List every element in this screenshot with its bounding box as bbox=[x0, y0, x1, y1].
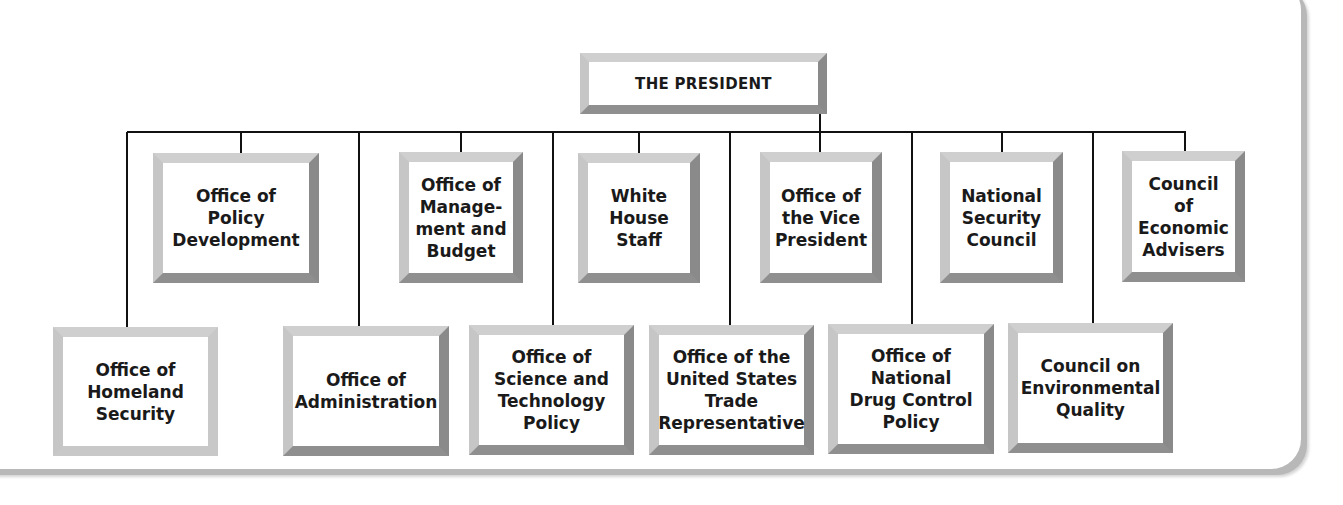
connector-ceq bbox=[1092, 132, 1094, 324]
connector-bus bbox=[127, 131, 1186, 133]
node-president: THE PRESIDENT bbox=[580, 53, 827, 114]
connector-nsc bbox=[1001, 132, 1003, 154]
node-label: Office of Administration bbox=[291, 369, 442, 413]
node-omb: Office of Manage- ment and Budget bbox=[399, 152, 523, 283]
node-administration: Office of Administration bbox=[283, 326, 449, 456]
node-nsc: National Security Council bbox=[940, 152, 1063, 283]
connector-ondcp bbox=[911, 132, 913, 325]
node-label: Office of National Drug Control Policy bbox=[846, 345, 977, 433]
connector-ustr bbox=[729, 132, 731, 325]
connector-vice-president bbox=[819, 132, 821, 154]
node-label: Office of Policy Development bbox=[168, 185, 303, 251]
node-ostp: Office of Science and Technology Policy bbox=[469, 325, 634, 455]
connector-ostp bbox=[552, 132, 554, 325]
node-label: Council of Economic Advisers bbox=[1132, 173, 1235, 261]
node-label: National Security Council bbox=[957, 185, 1046, 251]
node-label: Office of Science and Technology Policy bbox=[490, 346, 613, 434]
node-homeland-security: Office of Homeland Security bbox=[53, 327, 218, 456]
connector-homeland-security bbox=[126, 132, 128, 328]
node-white-house-staff: White House Staff bbox=[578, 153, 700, 283]
node-label: Council on Environmental Quality bbox=[1017, 355, 1165, 421]
connector-white-house-staff bbox=[638, 132, 640, 154]
node-cea: Council of Economic Advisers bbox=[1122, 151, 1245, 282]
node-vice-president: Office of the Vice President bbox=[760, 152, 882, 283]
node-label: Office of Manage- ment and Budget bbox=[411, 174, 510, 262]
node-label: THE PRESIDENT bbox=[631, 73, 776, 95]
connector-policy-development bbox=[240, 132, 242, 154]
node-label: Office of the United States Trade Repres… bbox=[654, 346, 809, 434]
node-label: White House Staff bbox=[605, 185, 673, 251]
connector-omb bbox=[460, 132, 462, 154]
node-ondcp: Office of National Drug Control Policy bbox=[828, 324, 994, 454]
node-ustr: Office of the United States Trade Repres… bbox=[649, 325, 814, 455]
connector-administration bbox=[358, 132, 360, 327]
node-policy-development: Office of Policy Development bbox=[153, 153, 319, 283]
node-label: Office of Homeland Security bbox=[83, 359, 188, 425]
node-ceq: Council on Environmental Quality bbox=[1008, 323, 1173, 453]
node-label: Office of the Vice President bbox=[771, 185, 871, 251]
